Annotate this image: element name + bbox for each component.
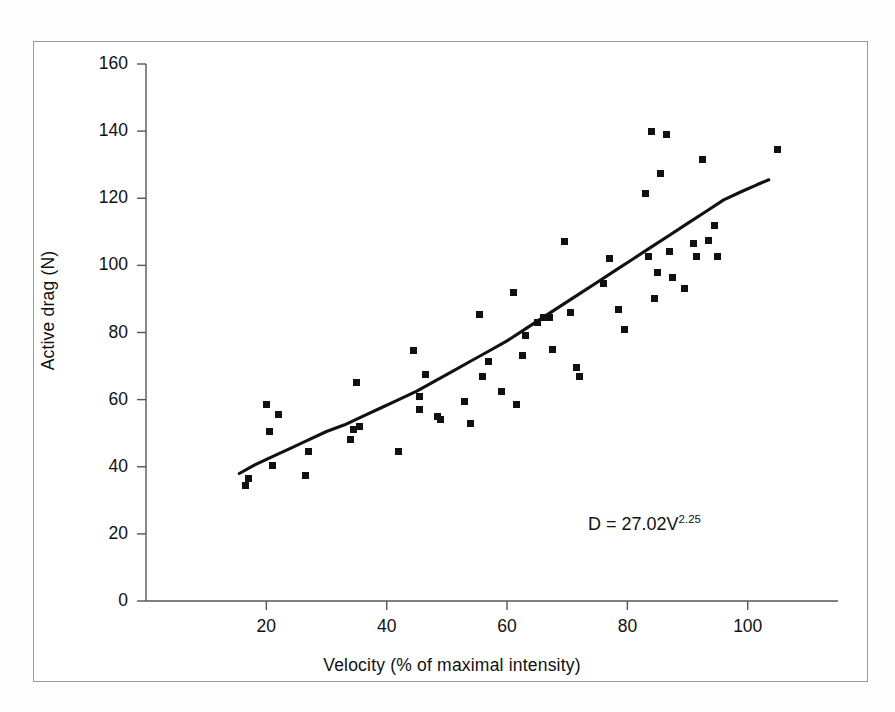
data-point-marker: [522, 332, 529, 339]
x-tick-label: 20: [243, 616, 289, 637]
data-point-marker: [648, 128, 655, 135]
data-point-marker: [245, 475, 252, 482]
data-point-marker: [467, 420, 474, 427]
data-point-marker: [699, 156, 706, 163]
data-point-marker: [681, 285, 688, 292]
y-tick-label: 60: [82, 389, 128, 410]
y-axis-ticks: [137, 64, 146, 601]
data-point-marker: [476, 311, 483, 318]
y-tick-label: 140: [82, 120, 128, 141]
data-point-marker: [711, 222, 718, 229]
data-point-marker: [510, 289, 517, 296]
data-point-marker: [690, 240, 697, 247]
data-point-marker: [302, 472, 309, 479]
data-point-marker: [275, 411, 282, 418]
data-point-marker: [615, 306, 622, 313]
plot-area: 020406080100120140160 20406080100 Active…: [0, 0, 895, 712]
data-point-marker: [621, 326, 628, 333]
data-point-marker: [663, 131, 670, 138]
x-axis-label: Velocity (% of maximal intensity): [232, 655, 672, 676]
data-point-marker: [561, 238, 568, 245]
x-tick-label: 60: [484, 616, 530, 637]
data-point-marker: [263, 401, 270, 408]
data-point-marker: [642, 190, 649, 197]
data-point-marker: [774, 146, 781, 153]
data-point-marker: [513, 401, 520, 408]
data-point-marker: [266, 428, 273, 435]
data-point-marker: [600, 280, 607, 287]
data-point-marker: [546, 314, 553, 321]
data-point-marker: [573, 364, 580, 371]
data-point-marker: [669, 274, 676, 281]
data-point-marker: [651, 295, 658, 302]
data-point-marker: [422, 371, 429, 378]
data-point-marker: [479, 373, 486, 380]
data-point-marker: [416, 406, 423, 413]
axes-and-series: [0, 0, 895, 712]
data-point-marker: [705, 237, 712, 244]
data-point-marker: [461, 398, 468, 405]
equation-exponent-text: 2.25: [679, 513, 701, 525]
data-point-marker: [242, 482, 249, 489]
data-point-marker: [269, 462, 276, 469]
data-point-marker: [353, 379, 360, 386]
data-point-marker: [356, 423, 363, 430]
data-point-marker: [654, 269, 661, 276]
data-point-marker: [437, 416, 444, 423]
y-tick-label: 40: [82, 456, 128, 477]
data-point-marker: [693, 253, 700, 260]
y-tick-label: 20: [82, 523, 128, 544]
x-tick-label: 100: [725, 616, 771, 637]
data-point-marker: [549, 346, 556, 353]
data-point-marker: [606, 255, 613, 262]
data-point-marker: [666, 248, 673, 255]
data-point-marker: [410, 347, 417, 354]
data-point-marker: [519, 352, 526, 359]
y-tick-label: 0: [82, 590, 128, 611]
y-tick-label: 80: [82, 322, 128, 343]
regression-equation-annotation: D = 27.02V2.25: [588, 513, 701, 535]
regression-curve: [239, 180, 769, 474]
data-point-marker: [498, 388, 505, 395]
data-point-marker: [567, 309, 574, 316]
x-tick-label: 40: [364, 616, 410, 637]
x-tick-label: 80: [604, 616, 650, 637]
data-point-marker: [657, 170, 664, 177]
equation-base-text: D = 27.02V: [588, 514, 679, 534]
data-point-marker: [576, 373, 583, 380]
axis-lines: [146, 64, 838, 601]
figure-container: 020406080100120140160 20406080100 Active…: [0, 0, 895, 712]
data-point-marker: [645, 253, 652, 260]
data-point-marker: [347, 436, 354, 443]
x-axis-ticks: [266, 601, 747, 610]
data-point-marker: [714, 253, 721, 260]
data-point-marker: [416, 393, 423, 400]
y-tick-label: 120: [82, 187, 128, 208]
data-point-marker: [485, 358, 492, 365]
y-tick-label: 160: [82, 53, 128, 74]
data-point-marker: [395, 448, 402, 455]
y-axis-label: Active drag (N): [38, 211, 59, 411]
data-point-marker: [305, 448, 312, 455]
y-tick-label: 100: [82, 254, 128, 275]
